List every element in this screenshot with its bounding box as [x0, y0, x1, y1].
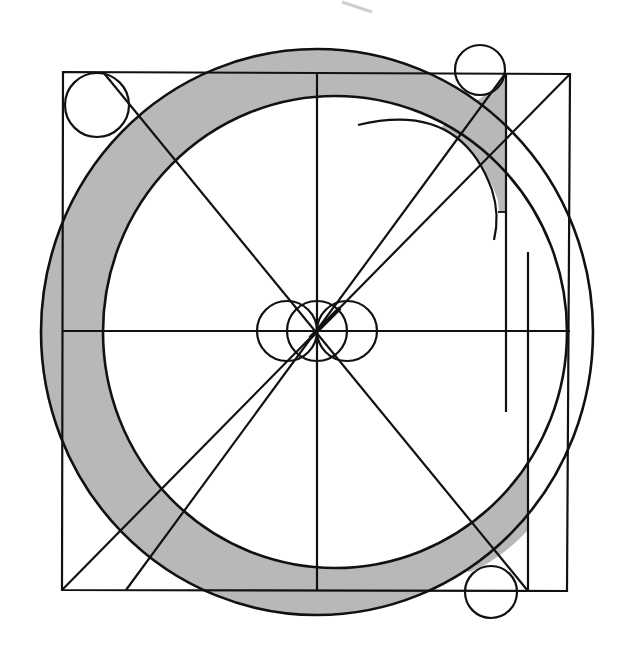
letter-construction-diagram: [0, 0, 620, 652]
diagram-canvas: [0, 0, 620, 652]
corner-circle-top-left: [65, 73, 129, 137]
corner-circle-bottom-right: [465, 566, 517, 618]
center-knot: [310, 308, 340, 338]
corner-circle-top-right: [455, 45, 505, 95]
smudge-mark: [342, 2, 372, 12]
